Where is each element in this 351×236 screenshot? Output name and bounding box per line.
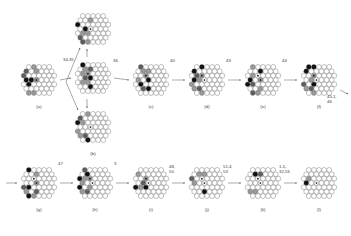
cluster-site [215,91,220,96]
cluster-site [44,172,49,177]
cluster-site [88,84,93,89]
cluster-site [138,194,143,199]
cluster-site [80,129,85,134]
cluster-site [215,194,220,199]
cluster-site [217,189,222,194]
cluster-site [80,120,85,125]
cluster-site [78,116,83,121]
cluster-site [103,27,108,32]
cluster-site [317,176,322,181]
cluster-site [253,69,258,74]
cluster-site [26,91,31,96]
cluster-site [220,73,225,78]
cluster-site [37,82,42,87]
center-dot [257,75,259,77]
cluster-site [96,80,101,85]
cluster-site [329,172,334,177]
structure-i [133,168,169,199]
cluster-site [91,80,96,85]
panel-letter-g: (g) [29,208,49,212]
cluster-site [309,189,314,194]
cluster-site [93,35,98,40]
cluster-site [103,194,108,199]
cluster-site [29,69,34,74]
cluster-site [98,18,103,23]
cluster-site [192,181,197,186]
cluster-site [34,86,39,91]
cluster-site [189,82,194,87]
cluster-site [143,65,148,70]
cluster-site [88,133,93,138]
cluster-site [42,91,47,96]
cluster-site [75,120,80,125]
cluster-site [210,194,215,199]
structure-c [133,65,169,96]
center-dot [201,75,203,77]
cluster-site [306,82,311,87]
cluster-site [82,176,87,181]
cluster-site [327,185,332,190]
cluster-site [80,22,85,27]
cluster-site [75,71,80,76]
center-dot [36,79,38,81]
structure-b [75,112,111,143]
cluster-site [332,73,337,78]
cluster-site [96,40,101,45]
arrow-label-lbl-43: 43 [226,59,231,64]
cluster-site [133,82,138,87]
cluster-site [101,120,106,125]
cluster-site [141,78,146,83]
cluster-site [253,181,258,186]
cluster-site [85,22,90,27]
arrow-label-lbl-36: 36 [113,59,118,64]
cluster-site [49,86,54,91]
cluster-site [138,82,143,87]
cluster-site [34,69,39,74]
cluster-site [210,176,215,181]
cluster-site [154,194,159,199]
cluster-site [324,189,329,194]
cluster-site [212,86,217,91]
cluster-site [250,185,255,190]
cluster-site [311,65,316,70]
center-dot [260,182,262,184]
cluster-site [248,181,253,186]
cluster-site [154,73,159,78]
panel-letter-b: (b) [83,152,103,156]
cluster-site [273,189,278,194]
cluster-site [306,194,311,199]
cluster-site [26,194,31,199]
cluster-site [78,67,83,72]
cluster-site [245,176,250,181]
cluster-site [327,194,332,199]
cluster-site [271,73,276,78]
cluster-site [156,86,161,91]
center-dot [316,182,318,184]
cluster-site [261,194,266,199]
cluster-site [309,181,314,186]
cluster-site [245,73,250,78]
cluster-site [80,189,85,194]
cluster-site [26,168,31,173]
cluster-site [93,185,98,190]
cluster-site [149,194,154,199]
cluster-site [304,69,309,74]
cluster-site [194,194,199,199]
cluster-site [42,73,47,78]
cluster-site [202,69,207,74]
cluster-site [255,65,260,70]
cluster-site [24,69,29,74]
cluster-site [319,86,324,91]
cluster-site [47,176,52,181]
cluster-site [263,189,268,194]
cluster-site [31,194,36,199]
cluster-site [98,168,103,173]
cluster-site [164,185,169,190]
cluster-site [324,86,329,91]
cluster-site [42,82,47,87]
cluster-site [42,176,47,181]
cluster-site [255,185,260,190]
cluster-site [138,65,143,70]
cluster-site [261,73,266,78]
cluster-site [78,133,83,138]
